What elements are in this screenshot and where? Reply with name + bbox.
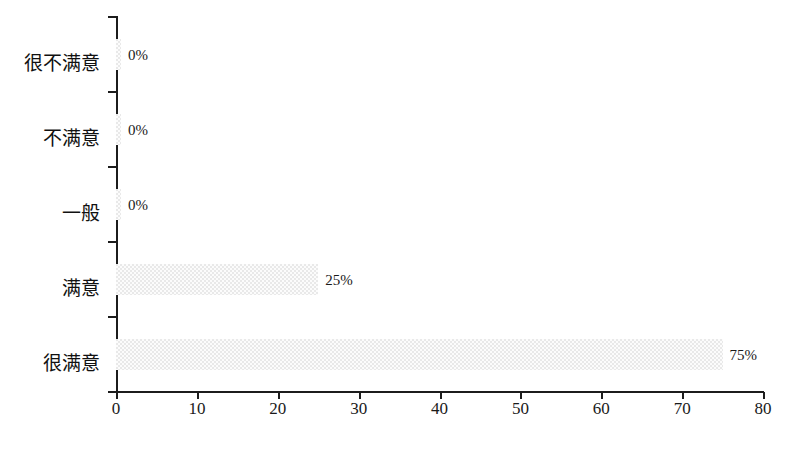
category-label-0: 很不满意 (0, 54, 100, 73)
bar-0: 0% (116, 39, 121, 70)
x-axis-tick-label-5: 50 (500, 400, 540, 417)
x-axis-tick-label-0: 0 (96, 400, 136, 417)
bar-3: 25% (116, 264, 318, 295)
bar-value-label-4: 75% (730, 347, 758, 362)
x-axis-tick-label-8: 80 (743, 400, 783, 417)
y-axis-tick (108, 91, 116, 93)
bar-row: 0% (116, 92, 763, 167)
x-axis-tick (601, 392, 603, 399)
bar-chart: 很不满意 不满意 一般 满意 很满意 0% 0% 0% 25% 75% (0, 0, 790, 451)
plot-area: 0% 0% 0% 25% 75% (116, 17, 763, 392)
x-axis-tick (359, 392, 361, 399)
x-axis-tick (197, 392, 199, 399)
y-axis-tick (108, 166, 116, 168)
x-axis-tick-label-1: 10 (177, 400, 217, 417)
y-axis-tick (108, 241, 116, 243)
x-axis-tick (440, 392, 442, 399)
category-label-1: 不满意 (0, 129, 100, 148)
x-axis-tick-label-7: 70 (662, 400, 702, 417)
bar-value-label-1: 0% (128, 122, 148, 137)
x-axis-tick (520, 392, 522, 399)
x-axis-tick-label-4: 40 (420, 400, 460, 417)
x-axis-tick-label-3: 30 (339, 400, 379, 417)
category-label-2: 一般 (0, 204, 100, 223)
y-axis-tick (108, 316, 116, 318)
x-axis-tick (682, 392, 684, 399)
bar-1: 0% (116, 114, 121, 145)
x-axis-tick (278, 392, 280, 399)
x-axis-tick-label-6: 60 (581, 400, 621, 417)
bar-row: 0% (116, 167, 763, 242)
bar-row: 75% (116, 317, 763, 392)
x-axis-tick (116, 392, 118, 399)
x-axis-tick-label-2: 20 (258, 400, 298, 417)
bar-row: 0% (116, 17, 763, 92)
y-axis-tick (108, 16, 116, 18)
bar-value-label-0: 0% (128, 47, 148, 62)
bar-value-label-2: 0% (128, 197, 148, 212)
x-axis-tick (763, 392, 765, 399)
bar-value-label-3: 25% (325, 272, 353, 287)
bar-2: 0% (116, 189, 121, 220)
bar-4: 75% (116, 339, 723, 370)
category-label-3: 满意 (0, 279, 100, 298)
y-axis-tick (108, 391, 116, 393)
bar-row: 25% (116, 242, 763, 317)
category-label-4: 很满意 (0, 354, 100, 373)
